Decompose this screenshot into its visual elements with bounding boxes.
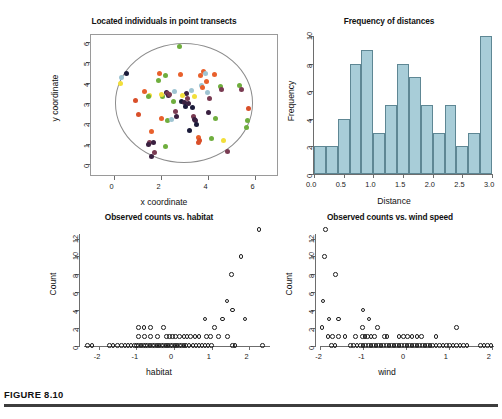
transect-ylabel: y coordinate [50, 43, 60, 153]
transect-xtick [208, 176, 209, 180]
habitat-point [148, 325, 153, 330]
habitat-point [161, 325, 166, 330]
histogram-bar[interactable] [361, 50, 373, 174]
wind-point [372, 334, 377, 339]
histogram-bar[interactable] [445, 105, 457, 174]
transect-xtick [161, 176, 162, 180]
histogram-bar[interactable] [338, 119, 350, 174]
wind-point [336, 317, 341, 322]
habitat-xtick [249, 346, 250, 350]
habitat-point [208, 334, 213, 339]
habitat-xticklabel: -1 [131, 352, 138, 361]
transect-point [149, 154, 154, 159]
wind-plot-area[interactable]: 024681012-2-1012 [316, 228, 496, 350]
histogram-bar[interactable] [433, 133, 445, 174]
habitat-plot-area[interactable]: 024681012-2-1012 [80, 228, 272, 350]
wind-yticklabel: 10 [307, 252, 316, 260]
histogram-bar[interactable] [480, 36, 492, 174]
histogram-xtick [462, 174, 463, 178]
histogram-bar[interactable] [385, 105, 397, 174]
histogram-bar[interactable] [314, 146, 326, 174]
transect-point [244, 125, 249, 130]
habitat-point [216, 334, 221, 339]
habitat-point [225, 299, 230, 304]
wind-point [333, 272, 338, 277]
transect-yticklabel: 3 [82, 103, 91, 107]
transect-xlabel: x coordinate [38, 197, 290, 207]
histogram-bar[interactable] [373, 133, 385, 174]
transect-point [209, 136, 214, 141]
wind-point [465, 343, 470, 348]
histogram-bar[interactable] [350, 64, 362, 174]
habitat-point [142, 334, 147, 339]
habitat-point [243, 317, 248, 322]
figure-caption-label: FIGURE 8.10 [4, 389, 64, 400]
histogram-yticklabel: 6 [305, 91, 314, 95]
transect-plot-area[interactable]: 02460123456 [90, 34, 278, 176]
wind-point [410, 334, 415, 339]
histogram-bar[interactable] [409, 77, 421, 174]
transect-point [157, 71, 162, 76]
wind-yticklabel: 12 [307, 234, 316, 242]
histogram-plot-area[interactable]: 02468100.00.51.01.52.02.53.0 [314, 36, 492, 174]
histogram-xticklabel: 2.0 [425, 180, 435, 189]
histogram-bar[interactable] [421, 105, 433, 174]
habitat-xticklabel: 2 [244, 352, 248, 361]
histogram-bar[interactable] [397, 64, 409, 174]
panel-located-individuals: Located individuals in point transects y… [38, 16, 290, 212]
habitat-point [220, 317, 225, 322]
wind-point [333, 343, 338, 348]
habitat-point [230, 308, 235, 313]
wind-point [322, 254, 327, 259]
histogram-yticklabel: 8 [305, 63, 314, 67]
histogram-yticklabel: 4 [305, 119, 314, 123]
transect-yticklabel: 4 [82, 83, 91, 87]
histogram-yticklabel: 0 [305, 174, 314, 178]
transect-point [203, 71, 208, 76]
habitat-point [155, 334, 160, 339]
transect-title: Located individuals in point transects [38, 16, 290, 26]
histogram-yticklabel: 2 [305, 146, 314, 150]
transect-point [124, 71, 129, 76]
wind-point [321, 299, 326, 304]
figure-page: Located individuals in point transects y… [0, 0, 502, 419]
habitat-title: Observed counts vs. habitat [38, 212, 280, 222]
histogram-bar[interactable] [468, 133, 480, 174]
wind-point [353, 334, 358, 339]
histogram-bar[interactable] [456, 146, 468, 174]
panel-counts-vs-habitat: Observed counts vs. habitat Count habita… [38, 212, 280, 384]
transect-point [178, 72, 183, 77]
wind-yticklabel: 4 [307, 310, 316, 314]
habitat-xticklabel: 0 [169, 352, 173, 361]
transect-point [142, 89, 147, 94]
habitat-point [203, 317, 208, 322]
wind-xticklabel: 2 [487, 352, 491, 361]
transect-xticklabel: 6 [251, 182, 255, 191]
habitat-point [90, 343, 95, 348]
transect-point [163, 144, 168, 149]
histogram-bar[interactable] [326, 146, 338, 174]
habitat-xlabel: habitat [38, 367, 280, 377]
habitat-point [209, 343, 214, 348]
wind-point [360, 325, 365, 330]
histogram-xtick [344, 174, 345, 178]
transect-point [190, 105, 195, 110]
histogram-xtick [433, 174, 434, 178]
wind-point [489, 343, 494, 348]
habitat-yticklabel: 6 [71, 292, 80, 296]
transect-xticklabel: 2 [157, 182, 161, 191]
histogram-yaxis [313, 36, 314, 174]
histogram-xticklabel: 3.0 [484, 180, 494, 189]
wind-yticklabel: 0 [307, 345, 316, 349]
habitat-point [229, 272, 234, 277]
habitat-point [257, 227, 262, 232]
wind-point [343, 334, 348, 339]
habitat-ylabel: Count [48, 234, 58, 334]
habitat-point [136, 325, 141, 330]
wind-point [385, 334, 390, 339]
wind-yticklabel: 8 [307, 274, 316, 278]
wind-xticklabel: -1 [358, 352, 365, 361]
habitat-yticklabel: 8 [71, 274, 80, 278]
panel-frequency-of-distances: Frequency of distances Frequency Distanc… [278, 16, 500, 212]
histogram-xticklabel: 0.5 [336, 180, 346, 189]
